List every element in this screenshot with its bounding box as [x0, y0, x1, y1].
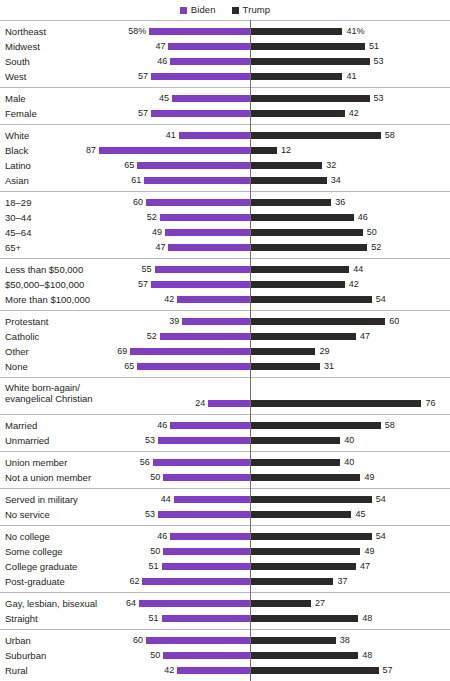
trump-value-label: 44 — [353, 265, 363, 274]
trump-value-label: 32 — [326, 161, 336, 170]
trump-value-label: 58 — [385, 131, 395, 140]
biden-bar — [158, 437, 250, 444]
row-label: College graduate — [5, 561, 77, 572]
biden-bar — [160, 333, 250, 340]
biden-bar — [172, 95, 250, 102]
plot-area: Northeast58%41%Midwest4751South4653West5… — [0, 20, 450, 681]
trump-value-label: 76 — [425, 399, 435, 408]
bar-row: Post-graduate6237 — [0, 574, 450, 589]
trump-bar — [250, 533, 372, 540]
trump-bar — [250, 244, 367, 251]
trump-value-label: 37 — [337, 577, 347, 586]
trump-bar — [250, 363, 320, 370]
biden-value-label: 60 — [133, 636, 143, 645]
bar-row: Female5742 — [0, 106, 450, 121]
row-label: More than $100,000 — [5, 294, 90, 305]
row-label: Asian — [5, 175, 29, 186]
bar-row: 65+4752 — [0, 240, 450, 255]
biden-bar — [170, 422, 250, 429]
biden-bar — [163, 652, 250, 659]
bar-row: Latino6532 — [0, 158, 450, 173]
trump-bar — [250, 511, 351, 518]
trump-bar — [250, 73, 342, 80]
row-label: Married — [5, 420, 37, 431]
bar-row: 18–296036 — [0, 195, 450, 210]
trump-value-label: 41% — [346, 27, 364, 36]
group-education: No college4654Some college5049College gr… — [0, 525, 450, 592]
trump-value-label: 41 — [346, 72, 356, 81]
biden-value-label: 53 — [145, 436, 155, 445]
bar-row: South4653 — [0, 54, 450, 69]
biden-value-label: 56 — [140, 458, 150, 467]
biden-value-label: 87 — [86, 146, 96, 155]
biden-swatch-icon — [180, 7, 187, 14]
trump-value-label: 53 — [374, 94, 384, 103]
trump-value-label: 48 — [362, 651, 372, 660]
group-community-type: Urban6038Suburban5048Rural4257 — [0, 629, 450, 681]
chart-legend: Biden Trump — [0, 0, 450, 20]
row-label: Straight — [5, 613, 38, 624]
biden-bar — [137, 162, 250, 169]
trump-value-label: 54 — [376, 532, 386, 541]
bar-row: College graduate5147 — [0, 559, 450, 574]
biden-value-label: 46 — [157, 532, 167, 541]
trump-bar — [250, 318, 385, 325]
trump-value-label: 42 — [349, 280, 359, 289]
row-label: No college — [5, 531, 50, 542]
row-label: South — [5, 56, 30, 67]
trump-bar — [250, 578, 333, 585]
row-label: Not a union member — [5, 472, 91, 483]
bar-row: Unmarried5340 — [0, 433, 450, 448]
biden-value-label: 65 — [124, 161, 134, 170]
trump-bar — [250, 58, 370, 65]
trump-bar — [250, 600, 311, 607]
bar-row: $50,000–$100,0005742 — [0, 277, 450, 292]
biden-bar — [137, 363, 250, 370]
trump-value-label: 42 — [349, 109, 359, 118]
biden-value-label: 51 — [149, 614, 159, 623]
trump-bar — [250, 95, 370, 102]
group-income: Less than $50,0005544$50,000–$100,000574… — [0, 258, 450, 310]
bar-row: Gay, lesbian, bisexual6427 — [0, 596, 450, 611]
bar-row: Less than $50,0005544 — [0, 262, 450, 277]
trump-bar — [250, 28, 342, 35]
bar-row: Midwest4751 — [0, 39, 450, 54]
group-union: Union member5640Not a union member5049 — [0, 451, 450, 488]
biden-bar — [163, 474, 250, 481]
legend-label-trump: Trump — [243, 5, 271, 15]
trump-bar — [250, 43, 365, 50]
row-label: Urban — [5, 635, 31, 646]
trump-value-label: 53 — [374, 57, 384, 66]
trump-value-label: 60 — [389, 317, 399, 326]
trump-value-label: 51 — [369, 42, 379, 51]
biden-value-label: 46 — [157, 57, 167, 66]
trump-value-label: 34 — [331, 176, 341, 185]
biden-value-label: 50 — [150, 547, 160, 556]
biden-bar — [179, 132, 250, 139]
trump-bar — [250, 214, 354, 221]
biden-value-label: 46 — [157, 421, 167, 430]
trump-bar — [250, 548, 360, 555]
group-sexual-orientation: Gay, lesbian, bisexual6427Straight5148 — [0, 592, 450, 629]
biden-value-label: 52 — [147, 213, 157, 222]
biden-value-label: 51 — [149, 562, 159, 571]
trump-value-label: 29 — [319, 347, 329, 356]
trump-bar — [250, 229, 363, 236]
row-label: $50,000–$100,000 — [5, 279, 84, 290]
bar-row: Some college5049 — [0, 544, 450, 559]
biden-value-label: 65 — [124, 362, 134, 371]
trump-value-label: 49 — [364, 547, 374, 556]
biden-bar — [146, 637, 250, 644]
center-axis-line — [250, 20, 251, 681]
biden-bar — [151, 281, 250, 288]
biden-bar — [151, 110, 250, 117]
bar-row: White4158 — [0, 128, 450, 143]
trump-value-label: 48 — [362, 614, 372, 623]
biden-value-label: 39 — [169, 317, 179, 326]
biden-bar — [153, 459, 250, 466]
row-label: 30–44 — [5, 212, 31, 223]
group-marital-status: Married4658Unmarried5340 — [0, 414, 450, 451]
group-religion: Protestant3960Catholic5247Other6929None6… — [0, 310, 450, 377]
bar-row: Not a union member5049 — [0, 470, 450, 485]
